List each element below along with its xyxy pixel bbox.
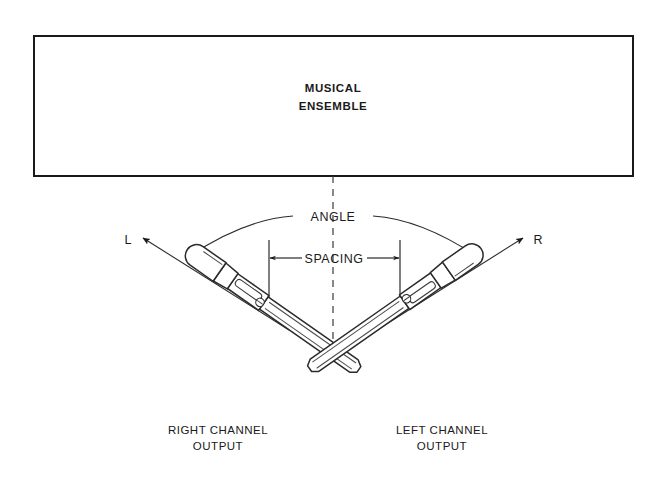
right-mic-handle-shadow [312,301,399,362]
right-channel-output-line1: RIGHT CHANNEL [168,424,268,436]
right-mic-handle-highlight [317,307,404,368]
left-channel-axis-label: L [125,233,132,247]
angle-dimension-label: ANGLE [311,210,356,224]
left-channel-output-line2: OUTPUT [417,440,467,452]
stereo-mic-diagram: MUSICAL ENSEMBLE ANGLE SPACING L R [0,0,666,491]
right-channel-axis-label: R [533,233,542,247]
ensemble-label-line1: MUSICAL [305,82,362,94]
ensemble-label-line2: ENSEMBLE [299,100,368,112]
diagram-canvas: MUSICAL ENSEMBLE ANGLE SPACING L R [0,0,666,491]
left-aim-ray [143,238,289,330]
spacing-dimension-label: SPACING [305,252,364,266]
right-channel-output-line2: OUTPUT [193,440,243,452]
left-channel-output-line1: LEFT CHANNEL [396,424,488,436]
